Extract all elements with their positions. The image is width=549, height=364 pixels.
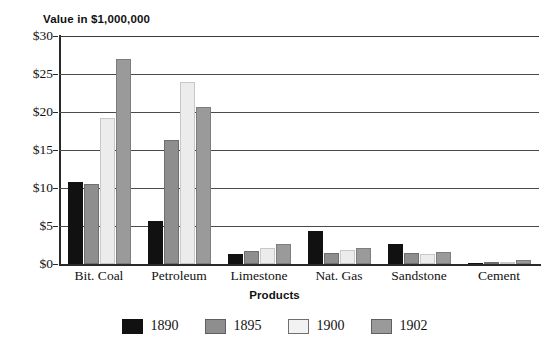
y-axis-tick-label: $25 (33, 66, 53, 82)
bar-group (308, 36, 371, 264)
bar-1902-bit-coal (116, 59, 131, 264)
x-axis-label-cement: Cement (478, 268, 520, 284)
x-axis-line (59, 264, 541, 266)
bar-group (148, 36, 211, 264)
y-axis-tick-label: $5 (40, 218, 54, 234)
y-axis-tick-mark (53, 264, 58, 265)
bar-chart: Value in $1,000,000 $0$5$10$15$20$25$30 … (0, 0, 549, 364)
bar-1895-cement (484, 262, 499, 264)
y-axis-tick-mark (53, 74, 58, 75)
y-axis-tick-mark (53, 226, 58, 227)
bar-1895-nat-gas (324, 253, 339, 264)
bar-1895-bit-coal (84, 184, 99, 264)
legend-item-1900[interactable]: 1900 (288, 318, 345, 334)
legend-label: 1900 (317, 318, 345, 334)
x-axis-label-nat-gas: Nat. Gas (315, 268, 362, 284)
x-axis-category-labels: Bit. CoalPetroleumLimestoneNat. GasSands… (59, 268, 539, 288)
bar-1902-limestone (276, 244, 291, 264)
legend-item-1895[interactable]: 1895 (205, 318, 262, 334)
bar-1890-limestone (228, 254, 243, 264)
bar-1890-petroleum (148, 221, 163, 264)
x-axis-title: Products (0, 289, 549, 301)
x-axis-label-sandstone: Sandstone (391, 268, 447, 284)
bar-1900-sandstone (420, 254, 435, 264)
bar-1895-sandstone (404, 253, 419, 264)
bar-1902-petroleum (196, 107, 211, 264)
y-axis-title: Value in $1,000,000 (43, 13, 150, 25)
x-axis-label-limestone: Limestone (231, 268, 288, 284)
legend-swatch-icon (205, 319, 226, 334)
bar-1900-limestone (260, 248, 275, 264)
legend-swatch-icon (288, 319, 309, 334)
legend-item-1902[interactable]: 1902 (371, 318, 428, 334)
bar-1900-cement (500, 262, 515, 264)
bar-1890-nat-gas (308, 231, 323, 264)
y-axis-tick-mark (53, 112, 58, 113)
bar-group (388, 36, 451, 264)
legend-item-1890[interactable]: 1890 (122, 318, 179, 334)
bar-1900-nat-gas (340, 250, 355, 264)
bar-1900-petroleum (180, 82, 195, 264)
bar-1890-sandstone (388, 244, 403, 264)
bar-1902-nat-gas (356, 248, 371, 264)
bar-1902-sandstone (436, 252, 451, 264)
y-axis-tick-label: $15 (33, 142, 53, 158)
bar-group (468, 36, 531, 264)
x-axis-label-bit-coal: Bit. Coal (75, 268, 124, 284)
y-axis-tick-label: $0 (40, 256, 54, 272)
legend-label: 1890 (151, 318, 179, 334)
legend-swatch-icon (371, 319, 392, 334)
y-axis-tick-mark (53, 150, 58, 151)
y-axis-tick-mark (53, 188, 58, 189)
bar-group (68, 36, 131, 264)
legend-swatch-icon (122, 319, 143, 334)
y-axis-tick-label: $30 (33, 28, 53, 44)
y-axis-tick-labels: $0$5$10$15$20$25$30 (0, 36, 53, 264)
y-axis-tick-mark (53, 36, 58, 37)
y-axis-tick-label: $20 (33, 104, 53, 120)
bar-1895-limestone (244, 251, 259, 264)
legend-label: 1902 (400, 318, 428, 334)
bar-group (228, 36, 291, 264)
plot-area (59, 36, 539, 264)
x-axis-label-petroleum: Petroleum (151, 268, 207, 284)
bar-1895-petroleum (164, 140, 179, 264)
y-axis-tick-label: $10 (33, 180, 53, 196)
bar-1900-bit-coal (100, 118, 115, 264)
clipped-chart-title (0, 0, 549, 5)
bar-1902-cement (516, 260, 531, 264)
chart-legend: 1890189519001902 (0, 318, 549, 334)
legend-label: 1895 (234, 318, 262, 334)
bar-1890-bit-coal (68, 182, 83, 264)
bar-1890-cement (468, 263, 483, 265)
